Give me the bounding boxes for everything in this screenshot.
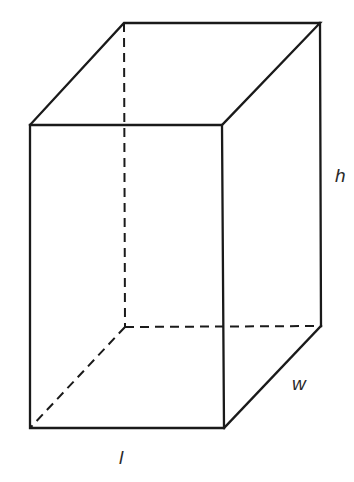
- front-face: [30, 125, 224, 428]
- hidden-edge-back-vertical: [124, 23, 125, 327]
- width-label: w: [292, 373, 307, 394]
- height-label: h: [335, 165, 346, 186]
- length-label: l: [119, 447, 124, 468]
- right-back-vertical-edge: [320, 23, 321, 326]
- top-face-edges: [30, 23, 320, 125]
- rectangular-prism-diagram: h w l: [0, 0, 354, 482]
- bottom-right-depth-edge: [224, 326, 321, 428]
- hidden-edge-bottom-depth: [30, 327, 125, 428]
